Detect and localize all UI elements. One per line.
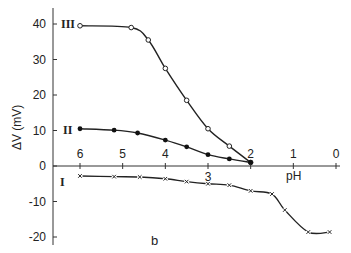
x-tick-label: 5 (119, 147, 126, 161)
open-circle-marker (163, 66, 168, 71)
y-tick-label: 40 (33, 17, 47, 31)
y-tick-label: 30 (33, 53, 47, 67)
open-circle-marker (206, 126, 211, 131)
axes: 403020100-10-206543210 (29, 8, 340, 245)
filled-circle-marker (184, 144, 189, 149)
open-circle-marker (78, 23, 83, 28)
x-tick-label: 2 (247, 147, 254, 161)
filled-circle-marker (78, 126, 83, 131)
y-tick-label: -10 (29, 195, 47, 209)
series-group (78, 23, 332, 233)
series-line (80, 176, 330, 234)
series-i (78, 174, 331, 234)
filled-circle-marker (163, 138, 168, 143)
x-tick-label: 0 (333, 147, 340, 161)
x-tick-label: 1 (290, 147, 297, 161)
series-iii (78, 23, 253, 164)
curve-label-i: I (60, 175, 65, 189)
panel-label: b (151, 233, 158, 248)
open-circle-marker (146, 38, 151, 43)
x-tick-label: 6 (77, 147, 84, 161)
filled-circle-marker (135, 131, 140, 136)
y-tick-label: -20 (29, 230, 47, 244)
open-circle-marker (129, 25, 134, 30)
filled-circle-marker (206, 152, 211, 157)
open-circle-marker (227, 144, 232, 149)
curve-label-ii: II (63, 123, 73, 137)
x-tick-label: 4 (162, 147, 169, 161)
chart: 403020100-10-206543210 III II I pH ΔV (m… (0, 0, 351, 253)
y-tick-label: 0 (39, 159, 46, 173)
filled-circle-marker (112, 128, 117, 133)
y-tick-label: 20 (33, 88, 47, 102)
y-tick-label: 10 (33, 124, 47, 138)
open-circle-marker (184, 98, 189, 103)
filled-circle-marker (248, 160, 253, 165)
filled-circle-marker (227, 157, 232, 162)
x-axis-title: pH (286, 169, 301, 183)
y-axis-title: ΔV (mV) (10, 105, 24, 150)
curve-label-iii: III (61, 17, 75, 31)
